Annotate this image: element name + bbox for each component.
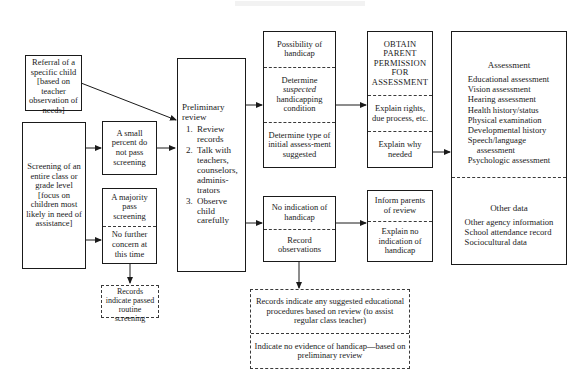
- preliminary-review-steps: Review records Talk with teachers, couns…: [182, 125, 245, 227]
- box-inform-parents[interactable]: Inform parents of review Explain no indi…: [367, 190, 433, 262]
- preliminary-review-heading: Preliminary review: [182, 103, 245, 123]
- obtain-permission-cell-3: Explain why needed: [368, 131, 432, 167]
- other-data-item: Other agency information: [465, 217, 554, 227]
- possibility-cell-3: Determine type of initial assess-ment su…: [264, 122, 335, 167]
- no-indication-cell-2: Record observations: [264, 229, 335, 262]
- assessment-item: Vision assessment: [468, 84, 550, 94]
- other-data-item: Sociocultural data: [465, 237, 554, 247]
- screening-text: Screening of an entire class or grade le…: [23, 123, 85, 268]
- small-percent-text: A small percent do not pass screening: [103, 122, 156, 174]
- box-assessment[interactable]: Assessment Educational assessment Vision…: [451, 31, 567, 265]
- inform-parents-cell-2: Explain no indication of handicap: [368, 221, 432, 261]
- preliminary-step: Talk with teachers, counselors, adminis-…: [195, 146, 245, 195]
- records-passed-text: Records indicate passed routine screenin…: [102, 286, 158, 326]
- possibility-cell-2: Determine suspected handicapping conditi…: [264, 67, 335, 122]
- assessment-title: Assessment: [488, 60, 531, 70]
- box-obtain-parent-permission[interactable]: OBTAIN PARENT PERMISSION FOR ASSESSMENT …: [367, 31, 433, 168]
- assessment-list: Educational assessment Vision assessment…: [468, 74, 550, 165]
- box-no-indication-of-handicap[interactable]: No indication of handicap Record observa…: [263, 196, 336, 262]
- other-data-item: School attendance record: [465, 227, 554, 237]
- referral-text: Referral of a specific child [based on t…: [26, 56, 81, 117]
- assessment-item: Health history/status: [468, 105, 550, 115]
- records-suggested-cell-1: Records indicate any suggested education…: [251, 290, 409, 333]
- records-suggested-cell-2: Indicate no evidence of handicap—based o…: [251, 333, 409, 368]
- page-header-artifact: [235, 1, 365, 6]
- assessment-item: Psychologic assessment: [468, 155, 550, 165]
- obtain-permission-cell-2: Explain rights, due process, etc.: [368, 95, 432, 131]
- box-records-suggested-procedures[interactable]: Records indicate any suggested education…: [250, 289, 410, 369]
- other-data-title: Other data: [490, 203, 528, 213]
- assessment-section: Assessment Educational assessment Vision…: [452, 32, 566, 177]
- box-small-percent[interactable]: A small percent do not pass screening: [102, 121, 157, 175]
- possibility-cell-1: Possibility of handicap: [264, 32, 335, 67]
- assessment-item: Developmental history: [468, 125, 550, 135]
- no-indication-cell-1: No indication of handicap: [264, 197, 335, 229]
- preliminary-step: Observe child carefully: [195, 197, 245, 227]
- inform-parents-cell-1: Inform parents of review: [368, 191, 432, 221]
- box-majority[interactable]: A majority pass screening No further con…: [102, 188, 157, 264]
- box-referral[interactable]: Referral of a specific child [based on t…: [25, 55, 82, 111]
- box-screening[interactable]: Screening of an entire class or grade le…: [22, 122, 86, 269]
- box-records-passed-screening[interactable]: Records indicate passed routine screenin…: [101, 285, 159, 318]
- assessment-item: Educational assessment: [468, 74, 550, 84]
- majority-cell-1: A majority pass screening: [103, 189, 156, 226]
- majority-cell-2: No further concern at this time: [103, 226, 156, 264]
- obtain-permission-cell-1: OBTAIN PARENT PERMISSION FOR ASSESSMENT: [368, 32, 432, 95]
- assessment-item: Speech/language: [468, 135, 550, 145]
- preliminary-step: Review records: [195, 125, 245, 145]
- other-data-list: Other agency information School attendan…: [465, 217, 554, 247]
- other-data-section: Other data Other agency information Scho…: [452, 177, 566, 264]
- box-possibility-of-handicap[interactable]: Possibility of handicap Determine suspec…: [263, 31, 336, 168]
- assessment-item: Physical examination: [468, 115, 550, 125]
- box-preliminary-review[interactable]: Preliminary review Review records Talk w…: [177, 58, 246, 272]
- assessment-item: assessment: [468, 145, 550, 155]
- assessment-item: Hearing assessment: [468, 94, 550, 104]
- handicapping-condition-label: handicapping condition: [267, 95, 332, 114]
- flowchart-canvas: Referral of a specific child [based on t…: [0, 0, 583, 391]
